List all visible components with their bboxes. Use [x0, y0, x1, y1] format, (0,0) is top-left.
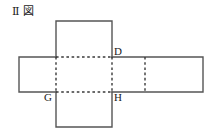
band-right-edges	[112, 57, 203, 92]
vertex-label-d: D	[114, 46, 122, 57]
net-fold-lines	[56, 57, 145, 92]
vertex-label-h: H	[114, 92, 122, 103]
net-solid-outline	[19, 21, 203, 127]
cube-net-diagram	[0, 0, 212, 130]
cube-net-svg	[0, 0, 212, 130]
top-square-edges	[56, 21, 112, 57]
figure-screenshot: Ⅱ図 D G H	[0, 0, 212, 130]
vertex-label-g: G	[44, 92, 52, 103]
band-left-edges	[19, 57, 56, 92]
bottom-square-edges	[56, 92, 112, 127]
